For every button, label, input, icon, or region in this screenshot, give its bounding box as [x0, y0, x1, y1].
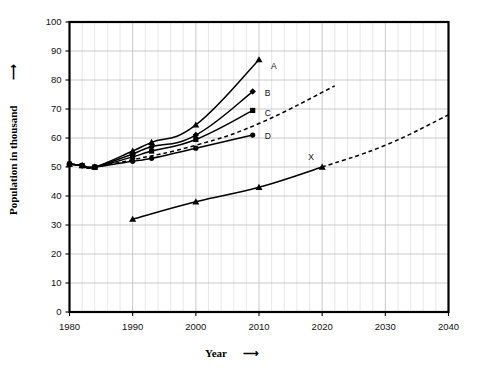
data-point-square-marker — [149, 148, 154, 153]
y-tick-label: 90 — [51, 45, 62, 56]
x-tick-label: 2010 — [248, 321, 269, 332]
data-point-circle-marker — [193, 146, 198, 151]
data-point-circle-marker — [92, 164, 97, 169]
data-point-square-marker — [250, 108, 255, 113]
x-axis-title: Year — [205, 347, 227, 359]
y-tick-label: 30 — [51, 219, 62, 230]
x-axis-arrow-icon: ⟶ — [243, 347, 259, 359]
x-tick-label: 1980 — [59, 321, 80, 332]
y-tick-label: 70 — [51, 103, 62, 114]
x-tick-label: 2000 — [185, 321, 206, 332]
series-label-x: X — [308, 152, 314, 162]
series-label-d: D — [265, 131, 271, 141]
y-tick-label: 10 — [51, 277, 62, 288]
y-tick-label: 0 — [56, 306, 61, 317]
y-tick-label: 60 — [51, 132, 62, 143]
data-point-circle-marker — [149, 156, 154, 161]
y-tick-label: 50 — [51, 161, 62, 172]
x-tick-label: 2040 — [438, 321, 459, 332]
x-tick-label: 2020 — [312, 321, 333, 332]
y-tick-label: 40 — [51, 190, 62, 201]
chart-canvas: 0102030405060708090100 19801990200020102… — [0, 0, 486, 378]
population-projection-chart: 0102030405060708090100 19801990200020102… — [0, 0, 486, 378]
y-tick-label: 100 — [46, 16, 62, 27]
y-axis-title: Population in thousand — [7, 106, 19, 215]
series-label-b: B — [265, 88, 271, 98]
data-point-circle-marker — [80, 163, 85, 168]
data-point-square-marker — [193, 137, 198, 142]
data-point-circle-marker — [130, 159, 135, 164]
series-label-c: C — [265, 108, 271, 118]
x-tick-label: 2030 — [375, 321, 396, 332]
y-tick-label: 80 — [51, 74, 62, 85]
data-point-circle-marker — [250, 133, 255, 138]
y-tick-label: 20 — [51, 248, 62, 259]
y-axis-arrow-icon: ⟶ — [7, 64, 19, 80]
x-tick-label: 1990 — [122, 321, 143, 332]
series-label-a: A — [271, 61, 277, 71]
